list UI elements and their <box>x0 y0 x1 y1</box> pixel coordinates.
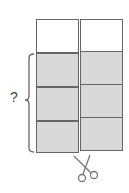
scissors-icon <box>0 0 129 193</box>
